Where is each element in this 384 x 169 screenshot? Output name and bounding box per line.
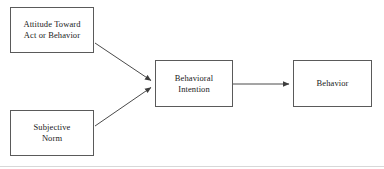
edge-attitude-to-intention	[95, 43, 151, 81]
bottom-divider-rule	[0, 166, 384, 167]
node-attitude-label: Attitude Toward Act or Behavior	[11, 19, 93, 41]
node-behavioral-intention: Behavioral Intention	[155, 60, 233, 107]
node-behavior: Behavior	[293, 60, 372, 107]
node-subjective-norm: Subjective Norm	[10, 110, 94, 156]
node-behavior-label: Behavior	[294, 78, 371, 89]
edge-norm-to-intention	[95, 88, 151, 127]
node-subjective-norm-label: Subjective Norm	[11, 122, 93, 144]
node-attitude-toward-act-or-behavior: Attitude Toward Act or Behavior	[10, 7, 94, 53]
diagram-canvas: Attitude Toward Act or Behavior Subjecti…	[0, 0, 384, 169]
node-behavioral-intention-label: Behavioral Intention	[156, 73, 232, 95]
